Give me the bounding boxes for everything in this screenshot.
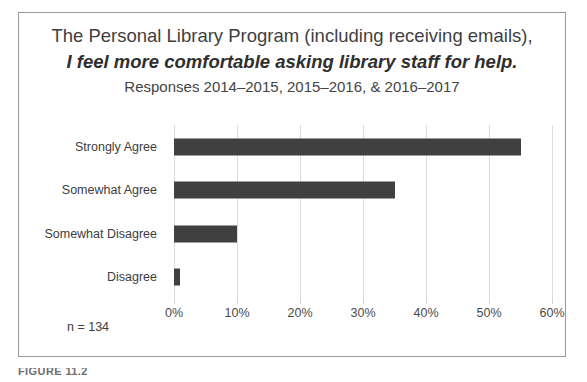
y-axis-label-strongly-agree: Strongly Agree <box>0 140 157 154</box>
bar-somewhat-agree <box>174 182 395 199</box>
x-axis-label-10: 10% <box>224 306 249 320</box>
x-axis-label-40: 40% <box>413 306 438 320</box>
figure-caption-clipped: FIGURE 11.2 <box>18 368 218 382</box>
chart-title-block: The Personal Library Program (including … <box>19 23 565 99</box>
tick-30 <box>363 299 364 304</box>
y-axis-label-disagree: Disagree <box>0 270 157 284</box>
x-axis-label-50: 50% <box>476 306 501 320</box>
x-axis-tick-labels: 0% 10% 20% 30% 40% 50% 60% <box>174 306 552 326</box>
x-axis-label-30: 30% <box>350 306 375 320</box>
bar-strongly-agree <box>174 138 521 155</box>
tick-40 <box>426 299 427 304</box>
tick-10 <box>237 299 238 304</box>
chart-subtitle: Responses 2014–2015, 2015–2016, & 2016–2… <box>19 75 565 99</box>
bars-area <box>174 125 552 299</box>
x-axis-label-20: 20% <box>287 306 312 320</box>
chart-title-emphasis: I feel more comfortable asking library s… <box>19 49 565 75</box>
tick-20 <box>300 299 301 304</box>
y-axis-category-labels: Strongly Agree Somewhat Agree Somewhat D… <box>29 125 165 299</box>
x-axis-label-0: 0% <box>165 306 183 320</box>
y-axis-label-somewhat-agree: Somewhat Agree <box>0 183 157 197</box>
x-axis-label-60: 60% <box>539 306 564 320</box>
plot-area: Strongly Agree Somewhat Agree Somewhat D… <box>29 113 557 328</box>
tick-0 <box>174 299 175 304</box>
tick-60 <box>552 299 553 304</box>
figure-frame: The Personal Library Program (including … <box>18 12 566 357</box>
bar-disagree <box>174 269 180 286</box>
sample-size-note: n = 134 <box>67 320 109 334</box>
y-axis-label-somewhat-disagree: Somewhat Disagree <box>0 227 157 241</box>
bar-somewhat-disagree <box>174 225 237 242</box>
chart-title-line-1: The Personal Library Program (including … <box>19 23 565 49</box>
gridline-60 <box>552 125 553 299</box>
figure-caption-text: FIGURE 11.2 <box>18 368 88 377</box>
tick-50 <box>489 299 490 304</box>
